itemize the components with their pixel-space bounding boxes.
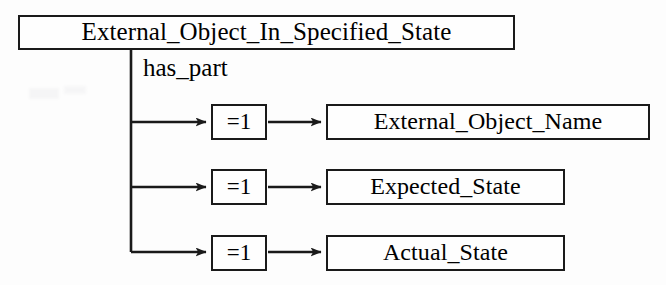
entity-box-root: External_Object_In_Specified_State — [18, 15, 515, 50]
entity-root-label: External_Object_In_Specified_State — [76, 19, 458, 47]
entity-relationship-diagram: External_Object_In_Specified_State has_p… — [0, 0, 666, 285]
cardinality-box-3: =1 — [211, 235, 267, 271]
scan-artifact — [64, 86, 86, 94]
cardinality-label-2: =1 — [221, 175, 258, 200]
attribute-box-external-object-name: External_Object_Name — [326, 104, 650, 140]
attribute-box-expected-state: Expected_State — [326, 169, 565, 205]
attribute-label-2: Expected_State — [364, 174, 527, 201]
scan-artifact — [29, 88, 59, 99]
cardinality-label-3: =1 — [221, 241, 258, 266]
cardinality-box-2: =1 — [211, 169, 267, 205]
attribute-label-3: Actual_State — [377, 240, 514, 267]
attribute-label-1: External_Object_Name — [368, 109, 609, 136]
cardinality-box-1: =1 — [211, 104, 267, 140]
relationship-label: has_part — [143, 55, 228, 80]
cardinality-label-1: =1 — [221, 110, 258, 135]
attribute-box-actual-state: Actual_State — [326, 235, 565, 271]
